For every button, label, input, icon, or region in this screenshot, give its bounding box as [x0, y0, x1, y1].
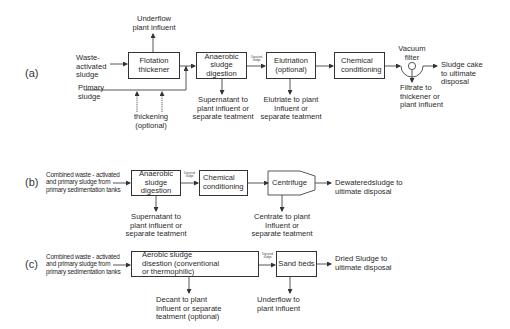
section-a-label: (a): [25, 67, 38, 79]
filtrate-output: Filtrate to thickener or plant influent: [400, 84, 443, 110]
supernatant-output-a: Supernatant to plant influent or separat…: [190, 96, 256, 122]
section-b-label: (b): [25, 176, 38, 188]
digested-sludge-label-a: Digested sludge: [248, 56, 265, 62]
flow-lines: [0, 0, 510, 329]
sludge-cake-output: Sludge cake to ultimate disposal: [441, 61, 483, 87]
decant-output: Decant to plant Influent or separate tea…: [156, 296, 221, 322]
digested-sludge-label-b: Digested sludge: [181, 172, 198, 178]
anaerobic-digestion-box-b: Anaerobic sludge digestion: [131, 170, 181, 196]
dried-sludge-output: Dried Sludge to ultimate disposal: [335, 255, 392, 272]
dewatered-sludge-output: Dewateredsludge to ultimate disposal: [335, 179, 403, 196]
sand-beds-box: Sand beds: [276, 251, 317, 277]
vacuum-filter-label: Vacuum filter: [394, 45, 430, 62]
aerobic-digestion-box: Aerobic sludge disestion (conventional o…: [131, 251, 259, 277]
elutriate-output: Elutriate to plant Influent or separate …: [258, 96, 324, 122]
chemical-conditioning-box-a: Chemical conditioning: [334, 52, 385, 79]
anaerobic-digestion-box-a: Anaerobic sludge digestion: [196, 52, 247, 79]
waste-activated-sludge-input: Waste- activated sludge: [76, 54, 106, 80]
digested-sludge-label-c: Digested sludge: [259, 253, 276, 259]
centrifuge-label: Centrifuge: [272, 179, 307, 188]
flotation-thickener-box: Flotation thickener: [128, 52, 180, 79]
underflow-output-c: Underflow to plant influent: [257, 296, 300, 313]
section-c-label: (c): [25, 258, 38, 270]
thickening-optional-input: thickening (optional): [127, 113, 175, 130]
combined-waste-input-b: Combined waste - activated and primary s…: [46, 171, 121, 193]
primary-sludge-input: Primary sludge: [78, 84, 104, 101]
elutriation-box: Elutriation (optional): [266, 52, 316, 79]
underflow-output: Underflow plant influent: [126, 15, 182, 32]
combined-waste-input-c: Combined waste - activated and primary s…: [46, 253, 121, 275]
chemical-conditioning-box-b: Chemical conditioning: [199, 170, 248, 196]
centrate-output: Centrate to plant Influent or separate t…: [249, 213, 315, 239]
supernatant-output-b: Supernatant to plant influent or separat…: [123, 213, 189, 239]
